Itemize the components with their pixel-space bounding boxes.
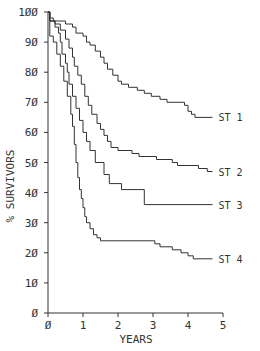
x-tick-label: 5 (220, 319, 227, 332)
x-tick-label: Ø (45, 319, 52, 332)
y-tick-label: 9Ø (25, 36, 39, 49)
y-tick-label: Ø (31, 307, 38, 320)
y-tick-label: 5Ø (25, 157, 39, 170)
y-tick-label: 8Ø (25, 66, 39, 79)
survival-curves (48, 12, 213, 259)
series-label: ST 1 (219, 112, 243, 123)
y-tick-label: 6Ø (25, 126, 39, 139)
axes: Ø1Ø2Ø3Ø4Ø5Ø6Ø7Ø8Ø9Ø1ØØØ12345 (18, 6, 226, 332)
y-tick-label: 4Ø (25, 187, 39, 200)
series-label: ST 3 (219, 200, 243, 211)
series-label: ST 2 (219, 167, 243, 178)
x-tick-label: 3 (150, 319, 157, 332)
series-labels: ST 1ST 2ST 3ST 4 (219, 112, 243, 264)
y-tick-label: 1ØØ (18, 6, 38, 19)
x-tick-label: 2 (115, 319, 122, 332)
curve-st-1 (48, 12, 213, 117)
series-label: ST 4 (219, 254, 243, 265)
survival-chart: Ø1Ø2Ø3Ø4Ø5Ø6Ø7Ø8Ø9Ø1ØØØ12345 ST 1ST 2ST … (0, 0, 260, 351)
y-tick-label: 2Ø (25, 247, 39, 260)
y-tick-label: 3Ø (25, 217, 39, 230)
x-tick-label: 4 (185, 319, 192, 332)
x-axis-title: YEARS (119, 333, 152, 346)
x-tick-label: 1 (80, 319, 87, 332)
y-tick-label: 7Ø (25, 96, 39, 109)
y-axis-title: % SURVIVORS (4, 150, 17, 223)
y-tick-label: 1Ø (25, 277, 39, 290)
